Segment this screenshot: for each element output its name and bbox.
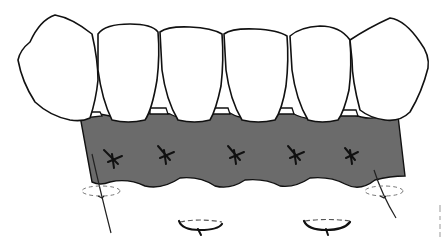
tooth-1 (18, 15, 98, 121)
tooth-6 (350, 18, 428, 120)
mattress-suture-left (179, 220, 222, 235)
mattress-suture-right (304, 220, 350, 236)
tooth-4 (224, 29, 288, 122)
teeth (18, 15, 428, 122)
dental-suture-illustration (0, 0, 443, 247)
tooth-2 (98, 24, 159, 122)
tooth-3 (160, 27, 223, 122)
tooth-5 (290, 26, 351, 122)
